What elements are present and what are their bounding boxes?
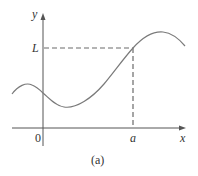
figure-caption: (a): [91, 154, 104, 166]
y-axis-arrow-icon: [41, 13, 46, 20]
graph-canvas: [0, 0, 198, 176]
a-label: a: [130, 132, 136, 144]
function-graph-figure: y L 0 a x (a): [0, 0, 198, 176]
x-axis-label: x: [180, 132, 185, 144]
origin-label: 0: [35, 132, 41, 144]
x-axis-arrow-icon: [179, 126, 186, 131]
L-label: L: [32, 42, 39, 54]
y-axis-label: y: [32, 8, 37, 20]
